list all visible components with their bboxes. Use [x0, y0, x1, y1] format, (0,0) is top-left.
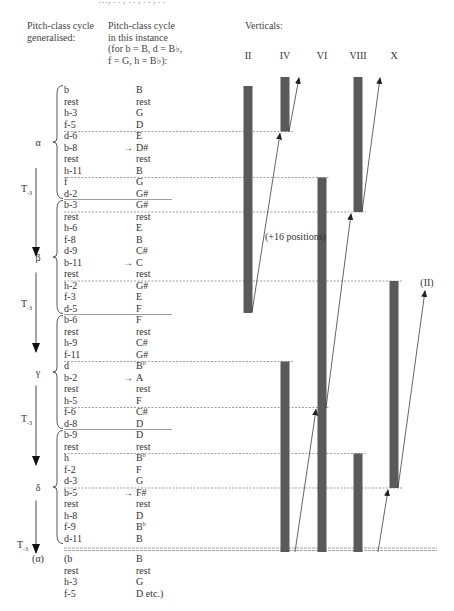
row-instance: B	[136, 84, 143, 95]
row-instance: B	[136, 234, 143, 245]
row-instance: D	[136, 429, 143, 440]
row-instance: D	[136, 510, 143, 521]
row-instance: Bb	[136, 360, 146, 371]
row-instance: F#	[136, 487, 147, 498]
repeat-row-generalised: (b	[64, 553, 72, 565]
row-generalised: h	[64, 452, 69, 463]
row-instance: G#	[136, 188, 148, 199]
vertical-label-x: X	[390, 50, 398, 61]
row-generalised: d-6	[64, 130, 77, 141]
arrow-right-icon: →	[123, 142, 133, 153]
bar-viii-bottom	[354, 454, 363, 553]
row-generalised: f-8	[64, 234, 76, 245]
arrow-vi-to-viii	[326, 214, 351, 408]
row-instance: rest	[136, 383, 151, 394]
bar-ii	[244, 86, 253, 313]
row-generalised: h-6	[64, 222, 77, 233]
row-instance: Bb	[136, 521, 146, 532]
arrow-right-icon: →	[123, 487, 133, 498]
vertical-label-viii: VIII	[349, 50, 366, 61]
row-instance: E	[136, 291, 142, 302]
row-instance: G#	[136, 199, 148, 210]
arrow-viii-to-x	[378, 490, 388, 552]
transposition-subscript: -3	[27, 190, 32, 196]
bar-viii-top	[354, 77, 363, 212]
row-instance: Bb	[136, 452, 146, 463]
row-generalised: f-2	[64, 464, 76, 475]
transposition-subscript: -3	[27, 305, 32, 311]
row-generalised: b-3	[64, 199, 77, 210]
positions-annotation: (+16 positions)	[265, 231, 326, 243]
row-generalised: f-3	[64, 291, 76, 302]
row-instance: B	[136, 533, 143, 544]
row-instance: C#	[136, 245, 148, 256]
row-instance: G#	[136, 349, 148, 360]
repeat-row-generalised: rest	[64, 565, 79, 576]
row-generalised: h-5	[64, 395, 77, 406]
row-instance: F	[136, 314, 142, 325]
row-instance: D	[136, 418, 143, 429]
row-generalised: b-2	[64, 372, 77, 383]
row-instance: G	[136, 475, 143, 486]
section-label-return: (α)	[32, 553, 44, 565]
verticals-diagram: IIIVVIVIIIXbBrestresth-3Gf-5Dd-6Eb-8D#→r…	[0, 0, 454, 611]
row-generalised: d-8	[64, 418, 77, 429]
vertical-label-ii: II	[245, 50, 252, 61]
arrow-right-icon: →	[123, 372, 133, 383]
vertical-label-vi: VI	[317, 50, 328, 61]
row-instance: C	[136, 257, 143, 268]
row-generalised: rest	[64, 498, 79, 509]
section-label: γ	[35, 367, 41, 378]
row-instance: rest	[136, 211, 151, 222]
repeat-row-instance: rest	[136, 565, 151, 576]
row-generalised: b-8	[64, 142, 77, 153]
bar-iv-top	[281, 77, 290, 132]
bar-x	[390, 281, 399, 488]
repeat-row-instance: G	[136, 576, 143, 587]
row-generalised: b-11	[64, 257, 82, 268]
row-instance: C#	[136, 337, 148, 348]
row-generalised: d-9	[64, 245, 77, 256]
row-generalised: h-3	[64, 107, 77, 118]
row-instance: E	[136, 222, 142, 233]
section-label: α	[35, 137, 41, 148]
row-instance: E	[136, 130, 142, 141]
row-instance: rest	[136, 441, 151, 452]
row-instance: rest	[136, 268, 151, 279]
row-generalised: d-11	[64, 533, 82, 544]
arrow-iv-to-vi	[295, 410, 316, 553]
row-generalised: f	[64, 176, 68, 187]
row-generalised: rest	[64, 96, 79, 107]
section-brace	[53, 316, 63, 429]
row-generalised: rest	[64, 383, 79, 394]
row-instance: rest	[136, 153, 151, 164]
bar-iv-bottom	[281, 362, 290, 553]
row-generalised: rest	[64, 268, 79, 279]
row-generalised: h-9	[64, 337, 77, 348]
row-generalised: b	[64, 84, 69, 95]
repeat-row-generalised: f-5	[64, 588, 76, 599]
arrow-right-icon: →	[123, 257, 133, 268]
row-generalised: d-3	[64, 475, 77, 486]
row-generalised: b-9	[64, 429, 77, 440]
arrow-ii-to-iv	[252, 134, 280, 313]
row-instance: rest	[136, 498, 151, 509]
section-brace	[53, 431, 63, 544]
transposition-subscript: -3	[23, 546, 28, 552]
section-label: δ	[36, 482, 41, 493]
row-instance: D	[136, 119, 143, 130]
transposition-label: T-3	[21, 183, 32, 196]
vertical-label-iv: IV	[280, 50, 291, 61]
transposition-label: T-3	[21, 298, 32, 311]
flat-sign: b	[143, 521, 146, 527]
row-instance: rest	[136, 326, 151, 337]
row-instance: F	[136, 303, 142, 314]
flat-sign: b	[143, 360, 146, 366]
row-instance: F	[136, 464, 142, 475]
row-generalised: h-8	[64, 510, 77, 521]
arrow-x-to-ii	[398, 291, 425, 488]
row-generalised: rest	[64, 441, 79, 452]
section-brace	[53, 86, 63, 199]
row-generalised: h-11	[64, 165, 82, 176]
row-instance: G#	[136, 280, 148, 291]
